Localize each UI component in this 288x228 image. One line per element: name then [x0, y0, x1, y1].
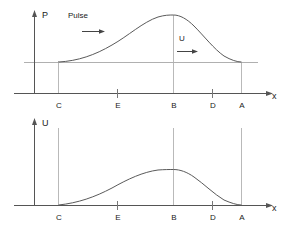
- velocity-x-axis-label: x: [272, 203, 277, 213]
- velocity-y-axis-label: U: [42, 118, 49, 128]
- tick-label-d-top: D: [210, 101, 216, 110]
- figure-canvas: P x C E B D A Pulse U: [0, 0, 288, 228]
- pressure-y-axis-arrow-icon: [32, 10, 37, 17]
- tick-label-c-bottom: C: [56, 213, 62, 222]
- pulse-direction-arrow-head-icon: [99, 29, 105, 33]
- tick-label-e-top: E: [115, 101, 120, 110]
- tick-label-a-bottom: A: [239, 213, 245, 222]
- pressure-y-axis-label: P: [42, 10, 48, 20]
- tick-label-e-bottom: E: [115, 213, 120, 222]
- velocity-curve: [59, 170, 242, 206]
- tick-label-b-top: B: [171, 101, 176, 110]
- pressure-x-axis-label: x: [272, 91, 277, 101]
- acoustic-pulse-figure: P x C E B D A Pulse U: [0, 0, 288, 228]
- velocity-panel: U x C E B D A: [14, 118, 277, 222]
- tick-label-b-bottom: B: [171, 213, 176, 222]
- tick-label-d-bottom: D: [210, 213, 216, 222]
- velocity-y-axis-arrow-icon: [32, 118, 37, 125]
- tick-label-a-top: A: [239, 101, 245, 110]
- tick-label-c-top: C: [56, 101, 62, 110]
- pulse-annotation-label: Pulse: [68, 11, 89, 20]
- velocity-annotation-label: U: [179, 34, 185, 43]
- pressure-panel: P x C E B D A Pulse U: [14, 10, 277, 110]
- pressure-curve: [59, 15, 242, 62]
- velocity-direction-arrow-head-icon: [192, 49, 198, 53]
